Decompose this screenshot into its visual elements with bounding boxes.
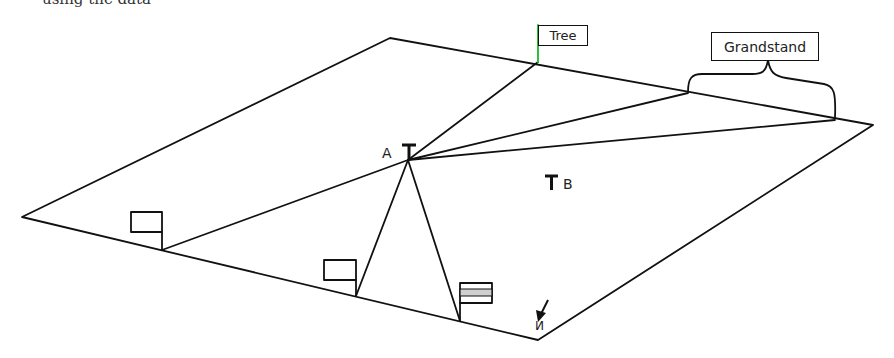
sight-line-grandstand-left bbox=[408, 93, 688, 160]
flag-middle-icon bbox=[324, 260, 356, 280]
cropped-header-text: using the data bbox=[42, 0, 151, 8]
field-boundary bbox=[22, 38, 873, 340]
tree-label: Tree bbox=[549, 28, 576, 43]
sight-line-grandstand-right bbox=[408, 120, 835, 160]
field-diagram: using the data bbox=[0, 0, 894, 358]
grandstand-label-box: Grandstand bbox=[711, 32, 819, 61]
flag-left-icon bbox=[131, 212, 162, 232]
station-b-icon bbox=[545, 176, 558, 190]
sight-line-flag-right bbox=[408, 160, 460, 321]
sight-line-flag-middle bbox=[356, 160, 408, 296]
station-a-label: A bbox=[382, 145, 392, 161]
tree-label-box: Tree bbox=[538, 25, 588, 46]
grandstand-label: Grandstand bbox=[724, 39, 806, 55]
grandstand-brace bbox=[688, 60, 835, 118]
flag-right-icon bbox=[460, 283, 492, 303]
north-label: N bbox=[535, 319, 544, 333]
station-b-label: B bbox=[563, 176, 573, 192]
sight-line-flag-left bbox=[162, 160, 408, 250]
